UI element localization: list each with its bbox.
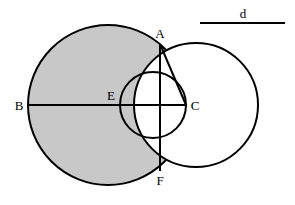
point-label-b: B [15,98,24,113]
point-label-e: E [107,88,115,103]
scale-bar-label: d [240,6,247,21]
figure-svg: d A B C E F [0,0,295,205]
geometry-diagram: d A B C E F [0,0,295,205]
point-label-a: A [155,26,165,41]
point-label-f: F [156,173,163,188]
point-label-c: C [191,98,200,113]
